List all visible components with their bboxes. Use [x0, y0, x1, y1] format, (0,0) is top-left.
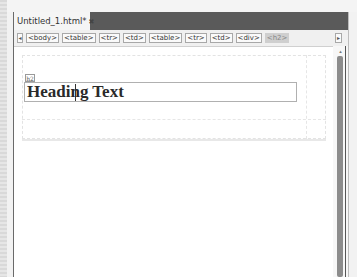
table-bottom-border [22, 139, 326, 141]
breadcrumb: <body> <table> <tr> <td> <table> <tr> <t… [26, 33, 289, 43]
editor-window: Untitled_1.html*✖ ◂ <body> <table> <tr> … [13, 12, 349, 277]
top-background [7, 0, 357, 12]
document-tab[interactable]: Untitled_1.html*✖ [14, 12, 90, 30]
breadcrumb-tr-nested[interactable]: <tr> [185, 33, 206, 43]
scroll-left-icon[interactable]: ◂ [17, 33, 23, 43]
text-cursor [75, 84, 76, 101]
breadcrumb-table-nested[interactable]: <table> [149, 33, 182, 43]
vertical-scrollbar[interactable]: ▴ [333, 46, 348, 277]
element-tag-label: h2 [25, 74, 35, 82]
breadcrumb-table[interactable]: <table> [62, 33, 95, 43]
scroll-up-icon[interactable]: ▴ [338, 49, 343, 54]
breadcrumb-td-nested[interactable]: <td> [210, 33, 233, 43]
breadcrumb-div[interactable]: <div> [236, 33, 262, 43]
design-view[interactable]: h2 Heading Text [14, 47, 333, 277]
tag-selector-bar: ◂ <body> <table> <tr> <td> <table> <tr> … [14, 30, 348, 47]
scrollbar-thumb[interactable] [337, 56, 343, 277]
breadcrumb-body[interactable]: <body> [26, 33, 59, 43]
breadcrumb-tr[interactable]: <tr> [99, 33, 120, 43]
breadcrumb-td[interactable]: <td> [123, 33, 146, 43]
scroll-right-icon[interactable]: ▸ [335, 33, 342, 43]
breadcrumb-h2[interactable]: <h2> [265, 33, 290, 43]
scrollbar-track-edge [345, 46, 346, 277]
document-tab-bar: Untitled_1.html*✖ [14, 12, 348, 30]
left-panel-edge [0, 0, 7, 277]
table-column-outline [306, 55, 318, 139]
document-tab-title: Untitled_1.html* [17, 16, 87, 26]
close-icon[interactable]: ✖ [89, 18, 95, 26]
table-row-divider [22, 119, 326, 120]
